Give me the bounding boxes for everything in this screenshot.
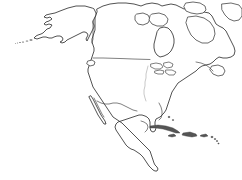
island-banks-island (135, 13, 150, 25)
island-victoria-island (149, 13, 168, 26)
island-vancouver-island (87, 60, 95, 66)
map-figure (0, 0, 242, 180)
north-america-map (0, 0, 242, 180)
